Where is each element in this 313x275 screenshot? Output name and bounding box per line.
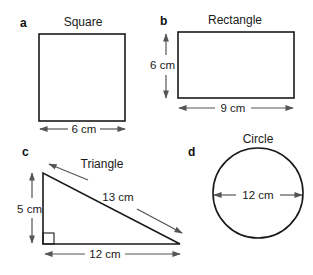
- figure-rectangle: b Rectangle 6 cm 9 cm: [150, 13, 294, 114]
- shapes-diagram: a Square 6 cm b Rectangle 6 cm 9 cm c Tr…: [0, 0, 313, 275]
- figure-triangle: c Triangle 5 cm 12 cm 13 cm: [17, 145, 182, 260]
- rectangle-height-dimension: 6 cm: [150, 34, 175, 98]
- figure-letter-d: d: [188, 145, 195, 159]
- rectangle-width-label: 9 cm: [221, 102, 246, 114]
- triangle-base-label: 12 cm: [89, 248, 120, 260]
- square-side-dimension: 6 cm: [40, 123, 125, 135]
- rectangle-width-dimension: 9 cm: [179, 102, 293, 114]
- square-side-label: 6 cm: [72, 123, 97, 135]
- triangle-shape: [43, 173, 180, 244]
- figure-letter-a: a: [20, 16, 27, 30]
- circle-title: Circle: [243, 132, 274, 146]
- figure-square: a Square 6 cm: [20, 15, 125, 135]
- rectangle-height-label: 6 cm: [150, 59, 175, 71]
- triangle-title: Triangle: [81, 157, 124, 171]
- circle-diameter-label: 12 cm: [242, 189, 273, 201]
- triangle-hypotenuse-label: 13 cm: [102, 191, 133, 203]
- figure-circle: d Circle 12 cm: [188, 132, 303, 238]
- triangle-height-label: 5 cm: [17, 203, 42, 215]
- triangle-height-dimension: 5 cm: [17, 173, 42, 243]
- square-title: Square: [64, 15, 103, 29]
- triangle-base-dimension: 12 cm: [45, 248, 180, 260]
- triangle-hypotenuse-dimension: 13 cm: [49, 164, 182, 233]
- rectangle-title: Rectangle: [208, 13, 262, 27]
- circle-diameter-dimension: 12 cm: [214, 189, 302, 201]
- figure-letter-c: c: [22, 145, 29, 159]
- square-shape: [39, 34, 125, 121]
- rectangle-shape: [178, 32, 294, 98]
- figure-letter-b: b: [160, 14, 167, 28]
- right-angle-marker: [43, 233, 54, 244]
